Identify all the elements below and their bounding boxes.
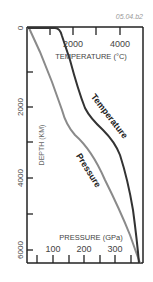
y-tick-label-0: 0 xyxy=(16,25,25,30)
y-tick-label-6000: 6000 xyxy=(16,241,25,259)
top-tick-label-2000: 2000 xyxy=(63,39,83,49)
y-tick-label-2000: 2000 xyxy=(16,98,25,116)
top-tick-label-4000: 4000 xyxy=(110,39,130,49)
y-axis-ticks xyxy=(27,72,33,250)
y-tick-label-4000: 4000 xyxy=(16,169,25,187)
temperature-curve-label: Temperature xyxy=(89,92,130,141)
y-axis-title: DEPTH (KM) xyxy=(38,125,46,166)
bottom-axis-title: PRESSURE (GPa) xyxy=(59,233,123,242)
bottom-tick-label-100: 100 xyxy=(45,244,60,254)
bottom-tick-label-300: 300 xyxy=(107,244,122,254)
bottom-axis-ticks xyxy=(37,255,131,263)
top-axis-title: TEMPERATURE (°C) xyxy=(55,52,127,61)
bottom-tick-label-200: 200 xyxy=(76,244,91,254)
depth-chart: 2000 4000 TEMPERATURE (°C) PRESSURE (GPa… xyxy=(0,0,153,282)
pressure-curve-label: Pressure xyxy=(74,151,103,189)
pressure-curve xyxy=(29,28,140,263)
